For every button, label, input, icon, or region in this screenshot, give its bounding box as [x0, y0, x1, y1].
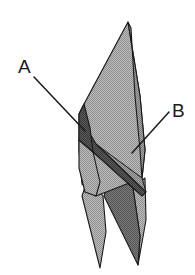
label-a: A — [18, 56, 31, 77]
label-b: B — [172, 100, 185, 121]
figure-root: A B — [0, 0, 195, 275]
folded-form-diagram: A B — [0, 0, 195, 275]
